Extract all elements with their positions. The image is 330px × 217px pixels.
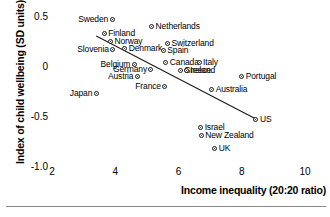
data-point: [163, 60, 168, 65]
data-point: [108, 39, 113, 44]
data-point-label: Netherlands: [156, 22, 200, 31]
data-point-label: Japan: [70, 89, 92, 98]
data-point-label: France: [135, 82, 161, 91]
data-point: [198, 125, 203, 130]
data-point-label: Slovenia: [77, 45, 108, 54]
data-point: [161, 48, 166, 53]
footer-rule: [6, 206, 326, 207]
data-point-label: New Zealand: [205, 131, 253, 140]
data-point: [110, 47, 115, 52]
data-point: [184, 68, 189, 73]
x-tick-label: 10: [290, 167, 320, 177]
data-point-label: Sweden: [78, 15, 108, 24]
x-tick-label: 8: [227, 167, 257, 177]
x-tick-label: 4: [100, 167, 130, 177]
data-point: [199, 133, 204, 138]
data-point: [178, 68, 183, 73]
x-tick-label: 2: [37, 167, 67, 177]
data-point: [162, 84, 167, 89]
data-point-label: Australia: [216, 85, 248, 94]
data-point: [209, 87, 214, 92]
data-point-label: Spain: [167, 46, 188, 55]
data-point-label: Portugal: [246, 72, 276, 81]
x-tick-label: 6: [164, 167, 194, 177]
data-point-label: Ireland: [190, 66, 215, 75]
data-point-label: UK: [219, 144, 231, 153]
scatter-chart-figure: Index of child wellbeing (SD units) 0.50…: [0, 0, 330, 217]
data-point: [239, 74, 244, 79]
data-point: [149, 24, 154, 29]
data-point: [94, 91, 99, 96]
x-axis-title: Income inequality (20:20 ratio): [0, 184, 326, 196]
data-point-label: Austria: [108, 72, 133, 81]
data-point: [122, 46, 127, 51]
data-point: [212, 146, 217, 151]
data-point-label: Denmark: [129, 44, 162, 53]
data-point: [135, 74, 140, 79]
data-point: [102, 31, 107, 36]
data-point-label: US: [260, 115, 272, 124]
data-point: [110, 17, 115, 22]
